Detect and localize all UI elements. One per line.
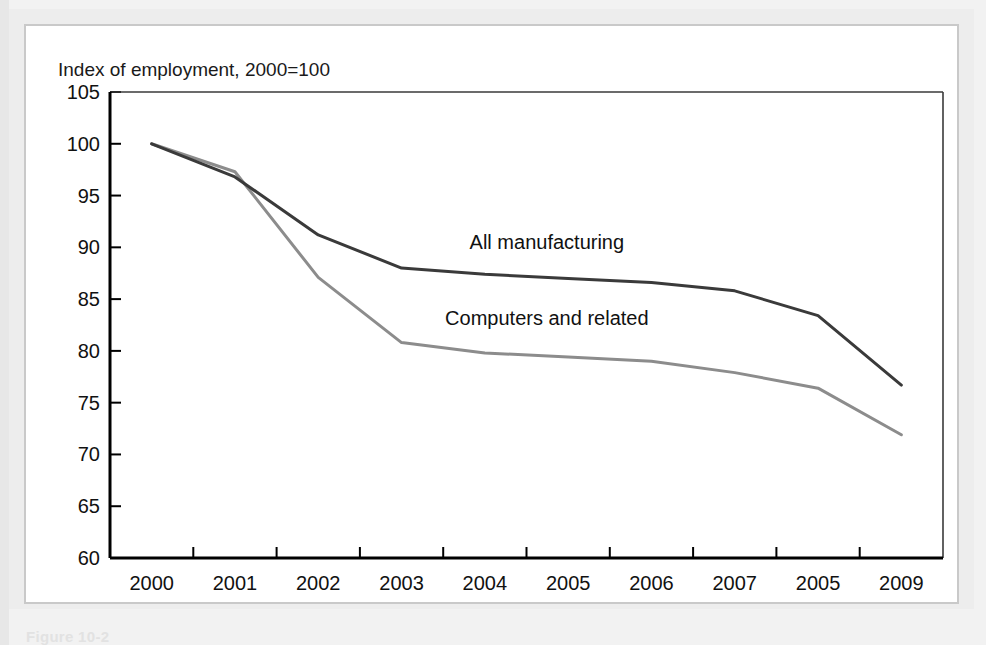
y-tick-label-100: 100 xyxy=(67,133,100,155)
x-tick-label-9: 2009 xyxy=(879,572,924,594)
x-axis-ticks xyxy=(193,547,859,558)
y-axis-tick-labels: 6065707580859095100105 xyxy=(67,81,100,569)
x-tick-label-3: 2003 xyxy=(379,572,424,594)
series-line-all-manufacturing xyxy=(152,144,902,385)
x-tick-label-7: 2007 xyxy=(713,572,758,594)
y-tick-label-70: 70 xyxy=(78,443,100,465)
series-label-all-manufacturing: All manufacturing xyxy=(470,231,625,253)
y-tick-label-85: 85 xyxy=(78,288,100,310)
x-tick-label-5: 2005 xyxy=(546,572,591,594)
y-tick-label-105: 105 xyxy=(67,81,100,103)
x-axis-tick-labels: 2000200120022003200420052006200720052009 xyxy=(129,572,923,594)
employment-index-line-chart: Index of employment, 2000=100 6065707580… xyxy=(0,0,986,645)
series-line-computers-and-related xyxy=(152,144,902,435)
x-tick-label-0: 2000 xyxy=(129,572,174,594)
series-label-computers-and-related: Computers and related xyxy=(445,307,648,329)
y-tick-label-65: 65 xyxy=(78,495,100,517)
x-tick-label-1: 2001 xyxy=(213,572,258,594)
y-tick-label-60: 60 xyxy=(78,547,100,569)
y-tick-label-90: 90 xyxy=(78,236,100,258)
figure-caption-partial: Figure 10-2 xyxy=(26,628,326,645)
x-tick-label-4: 2004 xyxy=(463,572,508,594)
y-axis-title: Index of employment, 2000=100 xyxy=(58,59,330,80)
y-tick-label-80: 80 xyxy=(78,340,100,362)
x-tick-label-6: 2006 xyxy=(629,572,674,594)
figure-page: Index of employment, 2000=100 6065707580… xyxy=(0,0,986,645)
chart-svg: Index of employment, 2000=100 6065707580… xyxy=(0,0,986,645)
y-axis-ticks xyxy=(110,92,121,558)
x-tick-label-8: 2005 xyxy=(796,572,841,594)
y-tick-label-75: 75 xyxy=(78,392,100,414)
x-tick-label-2: 2002 xyxy=(296,572,341,594)
y-tick-label-95: 95 xyxy=(78,185,100,207)
